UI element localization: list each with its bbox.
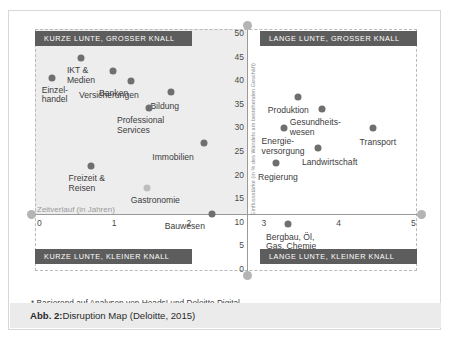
y-tick-10: 10: [230, 217, 244, 227]
data-point: [273, 160, 280, 167]
y-axis-line: [247, 25, 248, 275]
data-point: [87, 163, 94, 170]
data-point: [48, 74, 55, 81]
quadrant-label-bottom-left: KURZE LUNTE, KLEINER KNALL: [35, 249, 192, 264]
y-tick-40: 40: [230, 75, 244, 85]
data-point-label: Bergbau, Öl, Gas, Chemie: [266, 233, 316, 252]
caption-text: Disruption Map (Deloitte, 2015): [63, 310, 196, 321]
data-point-label: Versicherungen: [79, 91, 139, 101]
data-point: [315, 144, 322, 151]
y-tick-15: 15: [230, 193, 244, 203]
data-point: [128, 78, 135, 85]
data-point-label: Bauwesen: [165, 222, 205, 232]
y-tick-20: 20: [230, 170, 244, 180]
scatter-plot: KURZE LUNTE, GROSSER KNALL LANGE LUNTE, …: [21, 21, 431, 278]
data-point: [294, 94, 301, 101]
caption-prefix: Abb. 2:: [30, 310, 63, 321]
axis-endcap-left: [27, 210, 36, 219]
data-point: [285, 220, 292, 227]
data-point: [77, 55, 84, 62]
y-tick-25: 25: [230, 146, 244, 156]
y-tick-45: 45: [230, 52, 244, 62]
y-tick-0: 0: [230, 264, 244, 274]
data-point-label: Gastronomie: [131, 196, 180, 206]
data-point-label: Einzel- handel: [42, 86, 68, 105]
x-tick-3: 3: [261, 218, 266, 228]
data-point-label: Regierung: [258, 173, 298, 183]
y-tick-35: 35: [230, 99, 244, 109]
x-axis-line: [31, 214, 421, 215]
quadrant-label-top-right: LANGE LUNTE, GROSSER KNALL: [260, 31, 417, 46]
data-point-label: Freizeit & Reisen: [69, 174, 105, 193]
data-point-label: Transport: [360, 138, 396, 148]
axis-endcap-right: [417, 210, 426, 219]
data-point-label: Energie- versorgung: [262, 137, 305, 156]
figure-caption: Abb. 2: Disruption Map (Deloitte, 2015): [10, 303, 441, 328]
data-point: [318, 106, 325, 113]
data-point: [143, 185, 150, 192]
x-tick-1: 1: [112, 218, 117, 228]
figure-card: KURZE LUNTE, GROSSER KNALL LANGE LUNTE, …: [8, 10, 441, 330]
x-tick-5: 5: [411, 218, 416, 228]
data-point: [168, 88, 175, 95]
y-axis-title: Einflussstärke (in % des Wandels am best…: [250, 29, 260, 215]
quadrant-label-top-left: KURZE LUNTE, GROSSER KNALL: [35, 31, 192, 46]
data-point-label: IKT & Medien: [67, 66, 95, 85]
data-point: [145, 105, 152, 112]
data-point-label: Landwirtschaft: [302, 158, 357, 168]
y-tick-5: 5: [230, 240, 244, 250]
data-point: [208, 211, 215, 218]
y-tick-50: 50: [230, 28, 244, 38]
data-point: [110, 68, 117, 75]
plot-dashed-frame: [35, 29, 417, 271]
data-point: [201, 140, 208, 147]
data-point-label: Bildung: [150, 102, 179, 112]
y-tick-30: 30: [230, 122, 244, 132]
x-axis-title: Zeitverlauf (in Jahren): [37, 205, 115, 214]
x-tick-4: 4: [336, 218, 341, 228]
data-point: [280, 125, 287, 132]
data-point-label: Immobilien: [152, 153, 194, 163]
data-point: [369, 125, 376, 132]
data-point-label: Gesundheits- wesen: [290, 118, 341, 137]
x-tick-0: 0: [37, 218, 42, 228]
y-axis-tick-labels: 50454035302520151050: [228, 21, 244, 278]
data-point-label: Produktion: [268, 106, 309, 116]
axis-endcap-bottom: [243, 271, 252, 280]
data-point-label: Professional Services: [117, 116, 164, 135]
